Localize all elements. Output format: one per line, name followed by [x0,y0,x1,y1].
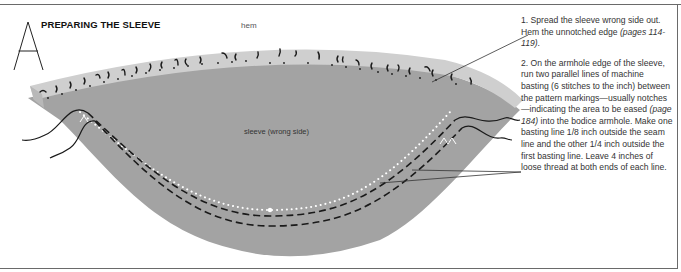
step-number: 1. [521,15,528,25]
instructions: 1. Spread the sleeve wrong side out. Hem… [521,15,673,182]
step-1: 1. Spread the sleeve wrong side out. Hem… [521,15,673,50]
hem-label: hem [241,21,257,30]
sleeve-label: sleeve (wrong side) [244,127,309,136]
step-text-end: . [538,38,540,48]
sleeve-body [28,61,520,257]
center-marker [268,208,272,212]
step-text: On the armhole edge of the sleeve, run t… [521,58,670,114]
figure-title: PREPARING THE SLEEVE [41,19,161,30]
step-text-end: into the bodice armhole. Make one bastin… [521,116,672,172]
step-number: 2. [521,58,528,68]
step-2: 2. On the armhole edge of the sleeve, ru… [521,58,673,174]
figure-letter-a [14,22,43,70]
